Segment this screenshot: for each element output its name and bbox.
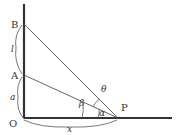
- label-a: a: [10, 92, 15, 102]
- label-alpha: α: [99, 108, 105, 118]
- label-x: x: [67, 124, 72, 134]
- label-theta: θ: [101, 84, 107, 94]
- angle-arc-theta: [93, 99, 99, 107]
- brace-l: [16, 25, 22, 74]
- label-beta: β: [78, 98, 84, 108]
- label-B: B: [11, 19, 18, 30]
- line-BP: [24, 24, 118, 118]
- label-A: A: [10, 70, 19, 81]
- label-P: P: [121, 102, 128, 113]
- label-l: l: [11, 44, 14, 54]
- geometry-diagram: B A O P l a x θ β α: [0, 0, 183, 135]
- label-O: O: [9, 118, 17, 129]
